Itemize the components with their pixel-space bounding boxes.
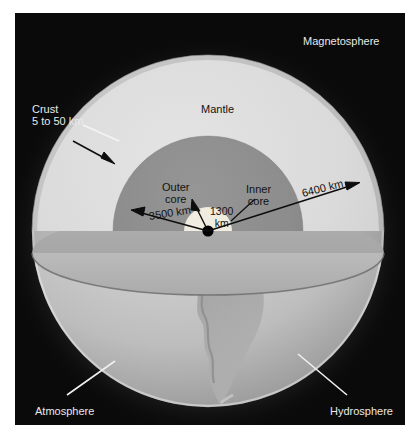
diagram-panel: Magnetosphere Crust 5 to 50 km Mantle Ou… bbox=[15, 13, 405, 425]
earth-cutaway-illustration bbox=[15, 13, 405, 425]
earth-structure-figure: Magnetosphere Crust 5 to 50 km Mantle Ou… bbox=[0, 0, 418, 435]
